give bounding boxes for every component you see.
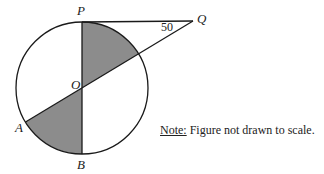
geometry-figure: P Q O A B 50 [0, 0, 324, 174]
label-a: A [14, 120, 23, 135]
note-text: Figure not drawn to scale. [187, 123, 315, 137]
note-head: Note: [160, 123, 187, 137]
label-b: B [77, 157, 85, 172]
angle-label-50: 50 [161, 20, 173, 34]
label-p: P [76, 3, 85, 18]
figure-note: Note: Figure not drawn to scale. [160, 123, 315, 138]
shaded-sector-lower [26, 88, 83, 154]
label-o: O [71, 77, 81, 92]
shaded-sector-upper [82, 22, 139, 88]
tangent-pq [82, 21, 193, 22]
label-q: Q [197, 11, 207, 26]
